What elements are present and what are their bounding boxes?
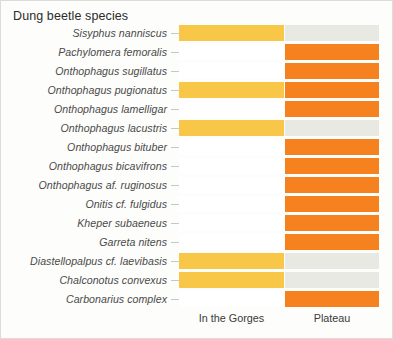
cell-in-the-gorges: [179, 196, 284, 212]
cell-fill: [179, 291, 284, 307]
row-tick-mark: [171, 204, 179, 205]
cell-fill: [285, 291, 379, 307]
row-tick-mark: [171, 128, 179, 129]
row-tick-mark: [171, 109, 179, 110]
cell-fill: [285, 272, 379, 288]
cell-fill: [285, 63, 379, 79]
species-row: Onthophagus bicavifrons: [1, 156, 393, 175]
species-label: Onthophagus sugillatus: [55, 65, 167, 77]
cell-fill: [285, 253, 379, 269]
species-label: Onthophagus lamelligar: [54, 103, 167, 115]
cell-fill: [179, 120, 284, 136]
cell-fill: [179, 25, 284, 41]
species-row: Kheper subaeneus: [1, 213, 393, 232]
cell-plateau: [285, 139, 379, 155]
cell-fill: [285, 215, 379, 231]
cell-fill: [179, 196, 284, 212]
x-axis: In the Gorges Plateau: [1, 312, 393, 332]
row-tick-mark: [171, 90, 179, 91]
species-label: Carbonarius complex: [66, 293, 167, 305]
row-tick-mark: [171, 147, 179, 148]
cell-plateau: [285, 63, 379, 79]
cell-in-the-gorges: [179, 272, 284, 288]
axis-label-plateau: Plateau: [285, 312, 379, 324]
cell-fill: [179, 234, 284, 250]
species-presence-matrix: Sisyphus nanniscusPachylomera femoralisO…: [1, 23, 393, 308]
cell-fill: [285, 120, 379, 136]
cell-in-the-gorges: [179, 158, 284, 174]
cell-plateau: [285, 215, 379, 231]
cell-fill: [285, 44, 379, 60]
cell-in-the-gorges: [179, 139, 284, 155]
species-label: Onthophagus af. ruginosus: [39, 179, 167, 191]
species-row: Onthophagus pugionatus: [1, 80, 393, 99]
cell-plateau: [285, 120, 379, 136]
species-label: Onthophagus bituber: [67, 141, 167, 153]
species-row: Onthophagus lamelligar: [1, 99, 393, 118]
cell-plateau: [285, 291, 379, 307]
cell-plateau: [285, 234, 379, 250]
row-tick-mark: [171, 185, 179, 186]
species-label: Diastellopalpus cf. laevibasis: [30, 255, 167, 267]
cell-fill: [179, 82, 284, 98]
cell-plateau: [285, 158, 379, 174]
species-label: Onitis cf. fulgidus: [85, 198, 167, 210]
species-row: Onitis cf. fulgidus: [1, 194, 393, 213]
species-row: Onthophagus sugillatus: [1, 61, 393, 80]
cell-in-the-gorges: [179, 291, 284, 307]
cell-fill: [179, 139, 284, 155]
species-row: Chalconotus convexus: [1, 270, 393, 289]
cell-plateau: [285, 272, 379, 288]
cell-fill: [285, 82, 379, 98]
cell-plateau: [285, 177, 379, 193]
species-label: Chalconotus convexus: [59, 274, 167, 286]
row-tick-mark: [171, 166, 179, 167]
page-title: Dung beetle species: [13, 9, 128, 23]
cell-in-the-gorges: [179, 253, 284, 269]
cell-fill: [179, 215, 284, 231]
cell-fill: [285, 25, 379, 41]
cell-fill: [285, 196, 379, 212]
cell-fill: [285, 158, 379, 174]
cell-fill: [179, 177, 284, 193]
cell-in-the-gorges: [179, 82, 284, 98]
cell-in-the-gorges: [179, 44, 284, 60]
species-row: Sisyphus nanniscus: [1, 23, 393, 42]
species-row: Diastellopalpus cf. laevibasis: [1, 251, 393, 270]
species-label: Onthophagus pugionatus: [48, 84, 168, 96]
cell-plateau: [285, 82, 379, 98]
species-row: Onthophagus af. ruginosus: [1, 175, 393, 194]
species-label: Garreta nitens: [99, 236, 167, 248]
cell-plateau: [285, 25, 379, 41]
cell-in-the-gorges: [179, 177, 284, 193]
row-tick-mark: [171, 280, 179, 281]
species-label: Onthophagus lacustris: [61, 122, 167, 134]
species-label: Kheper subaeneus: [77, 217, 167, 229]
species-row: Pachylomera femoralis: [1, 42, 393, 61]
row-tick-mark: [171, 71, 179, 72]
cell-in-the-gorges: [179, 120, 284, 136]
cell-fill: [179, 253, 284, 269]
cell-in-the-gorges: [179, 25, 284, 41]
cell-fill: [285, 177, 379, 193]
cell-fill: [285, 139, 379, 155]
cell-fill: [285, 101, 379, 117]
chart-figure: Dung beetle species Sisyphus nanniscusPa…: [0, 0, 393, 339]
cell-plateau: [285, 44, 379, 60]
cell-plateau: [285, 253, 379, 269]
row-tick-mark: [171, 52, 179, 53]
cell-fill: [179, 158, 284, 174]
species-row: Onthophagus lacustris: [1, 118, 393, 137]
cell-fill: [179, 272, 284, 288]
row-tick-mark: [171, 33, 179, 34]
row-tick-mark: [171, 223, 179, 224]
cell-fill: [285, 234, 379, 250]
species-label: Onthophagus bicavifrons: [49, 160, 167, 172]
cell-plateau: [285, 196, 379, 212]
cell-fill: [179, 101, 284, 117]
species-label: Pachylomera femoralis: [58, 46, 167, 58]
row-tick-mark: [171, 242, 179, 243]
cell-plateau: [285, 101, 379, 117]
cell-in-the-gorges: [179, 63, 284, 79]
cell-in-the-gorges: [179, 215, 284, 231]
